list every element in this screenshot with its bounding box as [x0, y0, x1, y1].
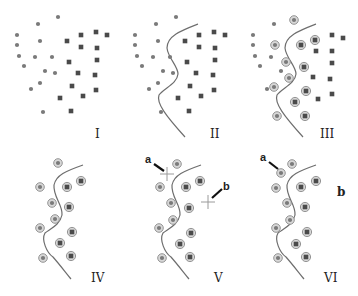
annotation-a: a — [260, 151, 267, 163]
panel-II: II — [133, 15, 227, 141]
panel-III: III — [251, 16, 345, 141]
support-vector-squares — [291, 176, 320, 261]
annotation-b: b — [223, 180, 230, 192]
class-circle-points — [15, 15, 60, 114]
panel-I: I — [15, 15, 109, 141]
class-square-points — [58, 30, 110, 114]
panel-VI: a b VI — [260, 151, 345, 285]
arrow-a-icon — [154, 164, 164, 171]
panel-label-III: III — [320, 127, 334, 141]
class-circle-points — [251, 22, 283, 91]
support-vector-squares — [175, 176, 204, 261]
panel-V: a b V — [145, 153, 230, 285]
annotation-b: b — [337, 185, 345, 199]
decision-boundary — [158, 24, 198, 137]
panel-IV: IV — [36, 159, 105, 285]
svm-diagram: I II — [0, 0, 358, 296]
panel-label-I: I — [95, 127, 100, 141]
class-circle-points — [133, 15, 178, 114]
panel-label-VI: VI — [323, 271, 338, 285]
panel-label-II: II — [210, 127, 220, 141]
panel-label-IV: IV — [91, 271, 105, 285]
arrow-a-icon — [269, 162, 278, 169]
arrow-b-icon — [212, 189, 222, 198]
panel-label-V: V — [213, 271, 223, 285]
annotation-a: a — [145, 153, 152, 165]
class-square-points — [176, 30, 228, 114]
support-vector-squares — [55, 176, 85, 260]
decision-boundary — [277, 165, 316, 279]
